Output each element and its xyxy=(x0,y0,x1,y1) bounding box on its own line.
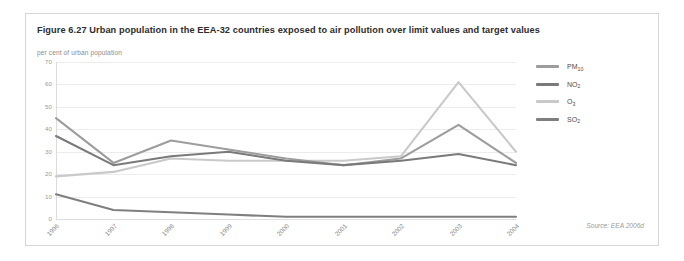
x-tick-label-1999: 1999 xyxy=(218,223,233,238)
x-tick-label-1998: 1998 xyxy=(161,223,176,238)
x-tick-label-2000: 2000 xyxy=(276,223,291,238)
y-tick-label-20: 20 xyxy=(45,171,52,177)
y-tick-label-40: 40 xyxy=(45,126,52,132)
y-tick-label-10: 10 xyxy=(45,193,52,199)
legend-label-O3: O3 xyxy=(567,98,575,105)
x-tick-label-1996: 1996 xyxy=(46,223,61,238)
legend-swatch-NO2 xyxy=(536,83,559,86)
series-line-O3 xyxy=(56,82,516,176)
x-tick-label-1997: 1997 xyxy=(103,223,118,238)
legend-label-SO2: SO2 xyxy=(567,116,580,123)
legend-item-NO2[interactable]: NO2 xyxy=(536,76,646,94)
series-line-NO2 xyxy=(56,136,516,165)
source-note: Source: EEA 2006d xyxy=(586,222,644,229)
plot-area: 010203040506070 199619971998199920002001… xyxy=(56,62,516,219)
series-line-PM10 xyxy=(56,118,516,165)
x-tick-label-2002: 2002 xyxy=(391,223,406,238)
y-tick-label-0: 0 xyxy=(49,216,52,222)
figure-title: Figure 6.27 Urban population in the EEA-… xyxy=(37,25,637,36)
legend-item-PM10[interactable]: PM10 xyxy=(536,58,646,76)
y-tick-label-50: 50 xyxy=(45,104,52,110)
x-tick-label-2004: 2004 xyxy=(506,223,521,238)
legend-swatch-O3 xyxy=(536,100,559,103)
y-tick-label-60: 60 xyxy=(45,81,52,87)
y-tick-label-30: 30 xyxy=(45,149,52,155)
gridline-0 xyxy=(56,219,516,220)
legend-label-NO2: NO2 xyxy=(567,81,580,88)
x-tick-label-2001: 2001 xyxy=(333,223,348,238)
legend-swatch-SO2 xyxy=(536,118,559,121)
legend-item-SO2[interactable]: SO2 xyxy=(536,111,646,129)
legend-label-PM10: PM10 xyxy=(567,63,583,70)
series-line-SO2 xyxy=(56,194,516,216)
legend-swatch-PM10 xyxy=(536,65,559,68)
chart-legend: PM10NO2O3SO2 xyxy=(536,58,646,128)
y-tick-label-70: 70 xyxy=(45,59,52,65)
y-axis-unit-label: per cent of urban population xyxy=(37,49,122,56)
series-lines xyxy=(56,62,516,219)
figure-panel: Figure 6.27 Urban population in the EEA-… xyxy=(25,13,659,246)
x-tick-label-2003: 2003 xyxy=(448,223,463,238)
legend-item-O3[interactable]: O3 xyxy=(536,93,646,111)
